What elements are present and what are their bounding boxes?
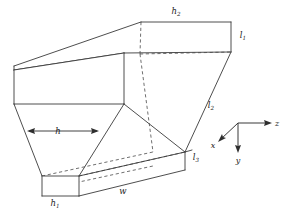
- axis-label-y: y: [235, 156, 241, 165]
- label-w: w: [119, 186, 127, 196]
- taper-left-outer-wall: [14, 104, 42, 176]
- dim-h-arrowhead-left: [27, 128, 35, 134]
- axis-x-line: [221, 123, 238, 139]
- label-l1: l1: [240, 30, 246, 41]
- outlet-run-bottom-edge: [79, 170, 185, 196]
- dimension-arrow-h: [27, 128, 99, 134]
- axis-y-arrowhead: [235, 145, 241, 153]
- dim-h-arrowhead-right: [91, 128, 99, 134]
- hidden-outlet-back-run: [42, 152, 153, 176]
- label-h1: h1: [50, 198, 59, 209]
- label-h2: h2: [171, 6, 180, 17]
- hidden-central-vertical: [140, 54, 153, 152]
- axis-label-x: x: [211, 141, 216, 150]
- label-l3: l3: [193, 152, 200, 163]
- bottom-outlet-duct: [42, 150, 192, 196]
- axis-z-arrowhead: [264, 120, 272, 126]
- outlet-run-top-edge: [79, 152, 185, 176]
- label-l2: l2: [208, 100, 215, 111]
- axis-label-z: z: [274, 119, 280, 128]
- taper-front-wall: [124, 104, 185, 152]
- hopper-wireframe-figure: h2 l1 l2 l3 h1 h w z y x: [0, 0, 286, 217]
- taper-inner-wall: [79, 104, 124, 176]
- diagram-canvas: h2 l1 l2 l3 h1 h w z y x: [0, 0, 286, 217]
- coordinate-axes: [218, 120, 272, 153]
- label-h: h: [55, 126, 60, 136]
